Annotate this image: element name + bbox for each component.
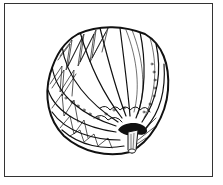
pumpkin-illustration <box>0 0 223 185</box>
pumpkin-body <box>47 27 168 154</box>
pumpkin-stem <box>118 123 147 153</box>
